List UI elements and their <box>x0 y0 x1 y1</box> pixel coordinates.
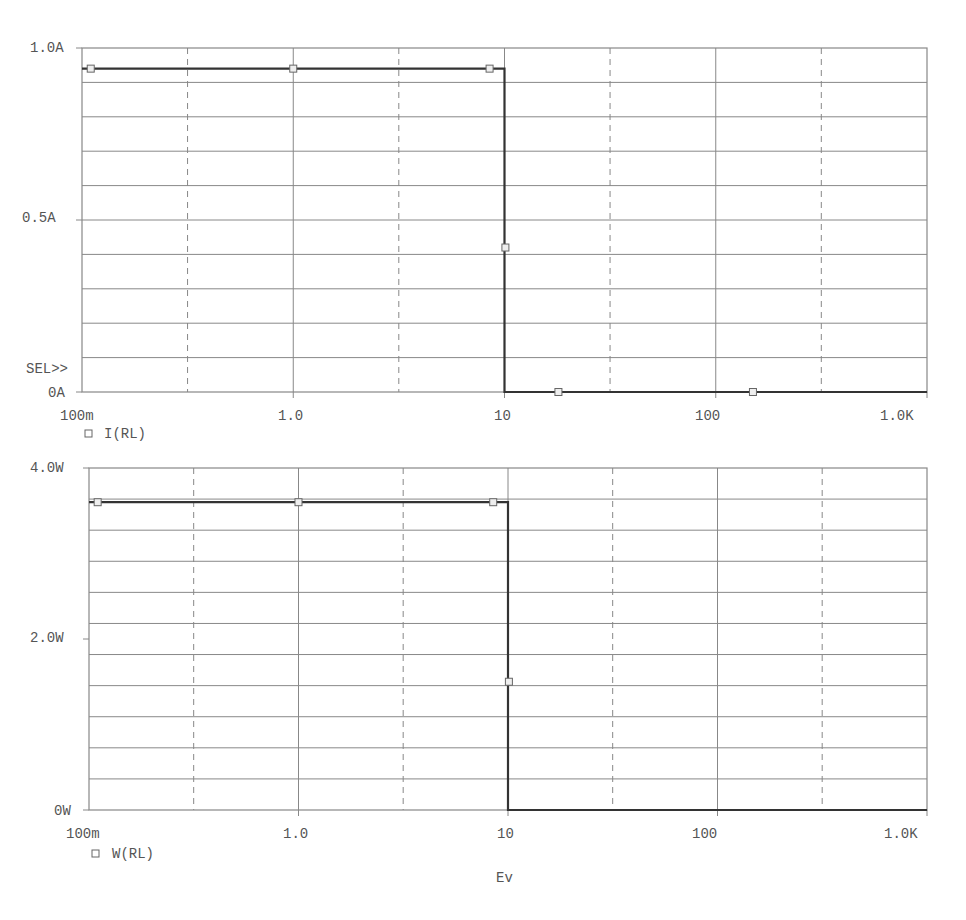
legend-marker-icon <box>85 430 92 437</box>
legend-w-rl: W(RL) <box>112 846 154 862</box>
y-tick-0A: 0A <box>48 385 65 401</box>
x-tick-1.0K: 1.0K <box>884 826 918 842</box>
x-tick-10: 10 <box>497 826 514 842</box>
legend-i-rl: I(RL) <box>104 426 146 442</box>
x-tick-100m: 100m <box>66 826 100 842</box>
y-tick-4.0W: 4.0W <box>30 460 64 476</box>
x-tick-1.0: 1.0 <box>283 826 308 842</box>
y-tick-1.0A: 1.0A <box>30 40 64 56</box>
x-tick-100m: 100m <box>60 408 94 424</box>
y-tick-2.0W: 2.0W <box>30 630 64 646</box>
sel-marker: SEL>> <box>26 361 68 377</box>
x-tick-100: 100 <box>692 826 717 842</box>
current-plot <box>76 48 927 398</box>
x-axis-label: Ev <box>496 870 513 886</box>
y-tick-0W: 0W <box>54 803 71 819</box>
x-tick-1.0: 1.0 <box>278 408 303 424</box>
x-tick-1.0K: 1.0K <box>880 408 914 424</box>
x-tick-100: 100 <box>695 408 720 424</box>
y-tick-0.5A: 0.5A <box>22 210 56 226</box>
chart-canvas: 1.0A 0.5A 0A SEL>> 100m 1.0 10 100 1.0K … <box>0 0 966 920</box>
legend-marker-icon <box>92 850 99 857</box>
power-plot <box>83 468 927 816</box>
x-tick-10: 10 <box>494 408 511 424</box>
